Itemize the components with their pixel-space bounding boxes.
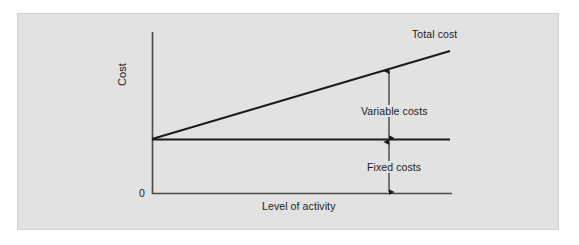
y-axis-title: Cost [116, 63, 128, 86]
total-cost-line [152, 51, 450, 139]
origin-tick-label: 0 [139, 187, 145, 199]
x-axis-title: Level of activity [262, 200, 335, 212]
total-cost-series-label: Total cost [412, 28, 457, 40]
variable-costs-annotation-label: Variable costs [358, 105, 431, 117]
cost-behaviour-figure: Cost 0 Level of activity Total cost Vari… [0, 0, 579, 245]
fixed-costs-annotation-label: Fixed costs [364, 161, 424, 173]
